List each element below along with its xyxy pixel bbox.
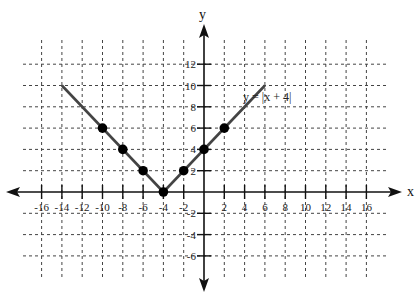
- x-tick-label: 8: [282, 201, 288, 213]
- y-tick-label: 12: [185, 58, 196, 70]
- y-tick-label: 6: [191, 122, 197, 134]
- y-tick-label: 2: [191, 165, 197, 177]
- y-tick-label: -4: [187, 229, 197, 241]
- x-tick-label: -8: [118, 201, 128, 213]
- x-tick-label: 16: [361, 201, 373, 213]
- data-point: [220, 123, 230, 133]
- y-tick-label: -2: [187, 207, 196, 219]
- x-tick-label: -14: [55, 201, 70, 213]
- x-axis-label: x: [407, 184, 414, 199]
- data-point: [98, 123, 108, 133]
- equation-label: y = |x + 4|: [243, 90, 291, 104]
- data-point: [199, 145, 209, 155]
- coordinate-plane: xy-16-14-12-10-8-6-4-2246810121416121086…: [0, 0, 420, 298]
- y-tick-label: 10: [185, 80, 197, 92]
- x-tick-label: -10: [95, 201, 110, 213]
- data-point: [179, 166, 189, 176]
- data-point: [138, 166, 148, 176]
- x-tick-label: -12: [75, 201, 90, 213]
- data-point: [118, 145, 128, 155]
- x-tick-label: 10: [300, 201, 312, 213]
- x-tick-label: 4: [242, 201, 248, 213]
- y-tick-label: -6: [187, 250, 197, 262]
- x-tick-label: -16: [34, 201, 49, 213]
- x-tick-label: -4: [159, 201, 169, 213]
- x-tick-label: 6: [262, 201, 268, 213]
- x-tick-label: 2: [222, 201, 228, 213]
- y-axis-label: y: [199, 7, 206, 22]
- x-tick-label: 12: [320, 201, 331, 213]
- x-tick-label: -6: [139, 201, 149, 213]
- data-point: [159, 187, 169, 197]
- y-tick-label: 4: [191, 143, 197, 155]
- y-tick-label: 8: [191, 101, 197, 113]
- x-tick-label: 14: [341, 201, 353, 213]
